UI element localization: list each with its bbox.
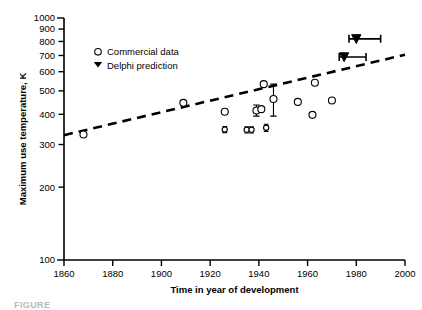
- data-point-commercial-12: [309, 111, 316, 118]
- data-point-commercial-3: [222, 127, 227, 132]
- data-point-commercial-8: [260, 81, 267, 88]
- x-tick-label-1860: 1860: [53, 268, 74, 279]
- x-tick-label-1920: 1920: [200, 268, 221, 279]
- data-point-commercial-14: [328, 97, 335, 104]
- y-tick-label-900: 900: [39, 23, 55, 34]
- y-tick-label-300: 300: [39, 139, 55, 150]
- y-tick-label-700: 700: [39, 50, 55, 61]
- legend-marker-delphi: [94, 62, 102, 68]
- x-tick-label-1880: 1880: [102, 268, 123, 279]
- legend-marker-commercial: [95, 49, 102, 56]
- legend-label-commercial: Commercial data: [107, 46, 180, 57]
- y-axis-title: Maximum use temperature, K: [17, 73, 28, 206]
- data-point-commercial-1: [180, 99, 187, 106]
- y-tick-label-500: 500: [39, 85, 55, 96]
- data-point-commercial-13: [311, 79, 318, 86]
- y-tick-label-200: 200: [39, 182, 55, 193]
- y-tick-label-400: 400: [39, 109, 55, 120]
- y-tick-label-100: 100: [39, 254, 55, 265]
- x-tick-label-1900: 1900: [151, 268, 172, 279]
- x-tick-label-1960: 1960: [297, 268, 318, 279]
- y-tick-label-800: 800: [39, 36, 55, 47]
- data-point-commercial-5: [249, 127, 254, 132]
- data-point-commercial-0: [80, 131, 87, 138]
- x-tick-label-1980: 1980: [346, 268, 367, 279]
- x-tick-label-1940: 1940: [248, 268, 269, 279]
- data-point-commercial-11: [294, 98, 301, 105]
- data-point-commercial-9: [264, 125, 269, 130]
- y-tick-label-600: 600: [39, 66, 55, 77]
- data-point-commercial-7: [258, 106, 265, 113]
- legend-label-delphi: Delphi prediction: [107, 60, 178, 71]
- y-tick-label-1000: 1000: [34, 12, 55, 23]
- figure-caption: FIGURE: [14, 300, 50, 310]
- data-point-commercial-10: [270, 95, 277, 102]
- x-axis-title: Time in year of development: [170, 284, 299, 295]
- data-point-commercial-2: [221, 108, 228, 115]
- x-tick-label-2000: 2000: [394, 268, 415, 279]
